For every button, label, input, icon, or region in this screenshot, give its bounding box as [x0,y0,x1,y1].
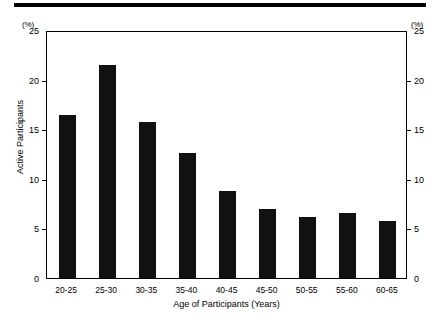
y-tick-label-right: 25 [414,27,424,36]
plot-area [46,31,407,279]
bar [139,122,156,278]
y-tick-mark-left [42,81,46,82]
x-tick-label: 45-50 [245,285,289,295]
y-tick-label-left: 0 [17,275,39,284]
y-tick-mark-left [42,130,46,131]
y-tick-mark-left [42,229,46,230]
y-tick-label-left: 15 [17,126,39,135]
y-tick-mark-right [407,81,411,82]
y-tick-label-left: 20 [17,77,39,86]
top-rule-divider [14,3,426,7]
bar [59,115,76,278]
chart-figure: (%) (%) Active Participants 005510101515… [0,0,436,319]
y-tick-label-right: 10 [414,176,424,185]
bar [339,213,356,278]
y-tick-mark-right [407,229,411,230]
bar [299,217,316,279]
x-tick-label: 25-30 [84,285,128,295]
y-tick-label-right: 15 [414,126,424,135]
x-tick-label: 55-60 [325,285,369,295]
bar [179,153,196,278]
x-tick-label: 35-40 [164,285,208,295]
x-tick-label: 30-35 [124,285,168,295]
y-tick-label-right: 20 [414,77,424,86]
bar [219,191,236,278]
bar [99,65,116,278]
y-tick-label-right: 5 [414,225,419,234]
bars-layer [47,32,406,278]
x-tick-label: 50-55 [285,285,329,295]
bar [379,221,396,278]
y-tick-label-left: 10 [17,176,39,185]
y-axis-title: Active Participants [15,67,25,207]
y-tick-label-right: 0 [414,275,419,284]
bar [259,209,276,278]
x-tick-label: 40-45 [205,285,249,295]
y-tick-mark-right [407,180,411,181]
y-tick-label-left: 5 [17,225,39,234]
y-tick-mark-left [42,180,46,181]
y-tick-mark-right [407,130,411,131]
x-tick-label: 20-25 [44,285,88,295]
x-axis-title: Age of Participants (Years) [46,299,407,309]
x-tick-label: 60-65 [365,285,409,295]
y-tick-label-left: 25 [17,27,39,36]
